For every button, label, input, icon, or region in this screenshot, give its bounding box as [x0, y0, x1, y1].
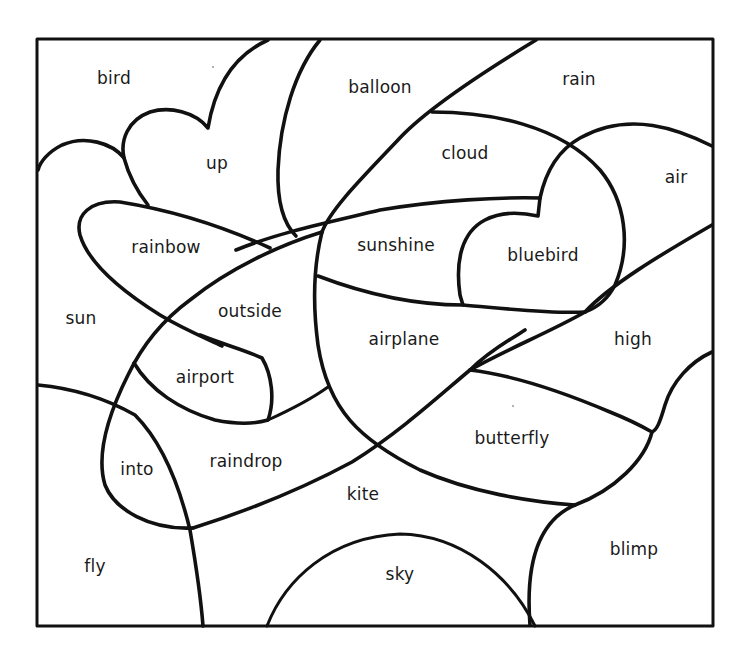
- region-label-sun[interactable]: sun: [65, 308, 96, 328]
- region-label-cloud[interactable]: cloud: [441, 143, 488, 163]
- region-label-up[interactable]: up: [206, 153, 228, 173]
- region-label-air[interactable]: air: [665, 167, 688, 187]
- region-label-bird[interactable]: bird: [97, 68, 131, 88]
- boundary-rainbow-oval: [79, 202, 270, 346]
- boundary-butterfly-top: [470, 370, 652, 432]
- region-label-balloon[interactable]: balloon: [348, 77, 412, 97]
- boundary-sunshine-airplane: [318, 276, 585, 312]
- region-label-high[interactable]: high: [614, 329, 652, 349]
- boundary-outside-raindrop: [268, 387, 328, 420]
- region-label-airport[interactable]: airport: [176, 367, 234, 387]
- region-label-kite[interactable]: kite: [347, 484, 380, 504]
- paper-speck: [212, 66, 214, 68]
- boundary-blimp-left: [529, 505, 575, 625]
- region-label-blimp[interactable]: blimp: [610, 539, 659, 559]
- paper-speck: [512, 405, 514, 407]
- region-label-rainbow[interactable]: rainbow: [131, 237, 200, 257]
- region-label-airplane[interactable]: airplane: [369, 329, 440, 349]
- region-label-butterfly[interactable]: butterfly: [475, 428, 550, 448]
- region-label-raindrop[interactable]: raindrop: [209, 451, 282, 471]
- region-label-outside[interactable]: outside: [218, 301, 282, 321]
- boundary-cloud-oval: [432, 112, 624, 312]
- boundary-up-rainbow: [124, 158, 148, 205]
- boundary-bird-up: [38, 40, 268, 170]
- region-label-fly[interactable]: fly: [84, 556, 105, 576]
- region-label-sky[interactable]: sky: [386, 564, 415, 584]
- region-label-sunshine[interactable]: sunshine: [357, 235, 435, 255]
- region-label-bluebird[interactable]: bluebird: [507, 245, 578, 265]
- region-label-into[interactable]: into: [120, 459, 153, 479]
- boundary-airplane-left: [315, 232, 575, 505]
- region-label-rain[interactable]: rain: [562, 69, 596, 89]
- boundary-air-high: [470, 225, 712, 370]
- boundary-balloon-left: [278, 40, 320, 236]
